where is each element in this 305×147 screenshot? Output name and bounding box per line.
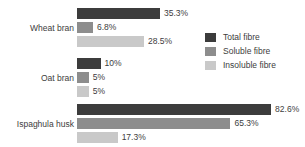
bar-insol [77,132,118,143]
bar-value-label: 17.3% [118,132,146,143]
bar-total [77,104,271,115]
bar-total [77,58,101,69]
legend-label: Soluble fibre [216,46,270,57]
category-label: Ispaghula husk [0,119,74,129]
category-label: Wheat bran [0,23,74,33]
legend-swatch-total [205,33,216,42]
fibre-content-bar-chart: Wheat bran35.3%6.8%28.5%Oat bran10%5%5%I… [0,0,305,147]
legend-swatch-insol [205,61,216,70]
bar-row: 17.3% [77,132,305,143]
bar-value-label: 5% [89,72,105,83]
legend-swatch-soluble [205,47,216,56]
bar-value-label: 5% [89,86,105,97]
legend-label: Total fibre [216,32,260,43]
bar-row: 82.6% [77,104,305,115]
bar-total [77,8,160,19]
legend-item[interactable]: Soluble fibre [205,46,301,57]
bar-group: Ispaghula husk82.6%65.3%17.3% [0,104,305,146]
bar-row: 35.3% [77,8,305,19]
bar-soluble [77,118,230,129]
bar-row: 65.3% [77,118,305,129]
bar-insol [77,86,89,97]
bar-value-label: 10% [101,58,122,69]
legend-label: Insoluble fibre [216,60,276,71]
bar-insol [77,36,144,47]
category-label: Oat bran [0,73,74,83]
bar-value-label: 6.8% [93,22,116,33]
bar-value-label: 28.5% [144,36,172,47]
bar-value-label: 65.3% [230,118,258,129]
legend-item[interactable]: Total fibre [205,32,301,43]
bar-soluble [77,72,89,83]
legend-item[interactable]: Insoluble fibre [205,60,301,71]
chart-legend: Total fibreSoluble fibreInsoluble fibre [205,32,301,74]
bar-value-label: 35.3% [160,8,188,19]
bar-row: 5% [77,86,305,97]
bar-soluble [77,22,93,33]
bar-value-label: 82.6% [271,104,299,115]
